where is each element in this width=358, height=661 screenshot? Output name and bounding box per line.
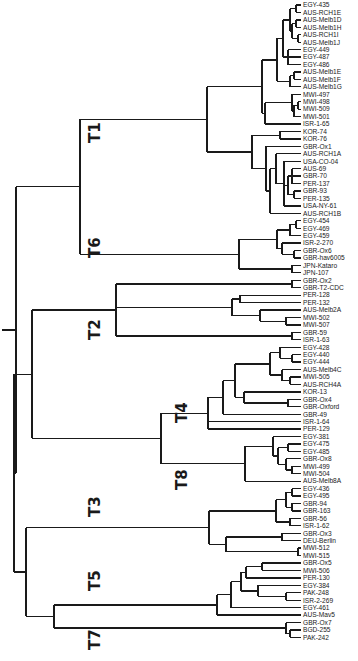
leaf-label: GBR-56 [303, 515, 327, 522]
leaf-label: PER-132 [303, 299, 330, 306]
leaf-label: MWI-502 [303, 314, 330, 321]
leaf-label: PER-129 [303, 425, 330, 432]
leaf-label: EGY-459 [303, 232, 330, 239]
clade-label-t3: T3 [86, 496, 104, 517]
leaf-label: EGY-487 [303, 53, 330, 60]
leaf-label: AUS-RCH1A [303, 150, 342, 157]
leaf-label: KOR-76 [303, 135, 327, 142]
leaf-label: GBR-59 [303, 329, 327, 336]
leaf-label: ISR-1-63 [303, 336, 330, 343]
leaf-label: EGY-454 [303, 217, 330, 224]
leaf-label: ISR-1-65 [303, 120, 330, 127]
clade-labels: T1T6T2T4T8T3T5T7 [86, 122, 191, 650]
leaf-label: AUS-Melb8A [303, 477, 342, 484]
leaf-label: EGY-475 [303, 440, 330, 447]
leaf-label: EGY-469 [303, 225, 330, 232]
leaf-labels: EGY-435AUS-RCH1EAUS-Melb1DAUS-Melb1HAUS-… [303, 1, 345, 640]
leaf-label: AUS-Melb1G [303, 83, 342, 90]
clade-label-t4: T4 [173, 402, 191, 423]
leaf-label: AUS-Melb1E [303, 68, 342, 75]
leaf-label: AUS-Melb1J [303, 39, 340, 46]
leaf-label: BGD-255 [303, 626, 331, 633]
leaf-label: JPN-Kataro [303, 262, 337, 269]
leaf-label: AUS-RCH1I [303, 31, 339, 38]
leaf-label: EGY-485 [303, 448, 330, 455]
leaf-label: EGY-436 [303, 485, 330, 492]
leaf-label: AUS-69 [303, 165, 326, 172]
leaf-label: GBR-Ox8 [303, 455, 332, 462]
leaf-label: PAK-242 [303, 634, 329, 641]
leaf-label: GBR-163 [303, 507, 331, 514]
leaf-label: GBR-94 [303, 500, 327, 507]
leaf-label: AUS-RCH4A [303, 381, 342, 388]
leaf-label: GBR-49 [303, 411, 327, 418]
leaf-label: AUS-RCH1B [303, 210, 342, 217]
leaf-label: MWI-506 [303, 567, 330, 574]
leaf-label: AUS-Melb1H [303, 24, 342, 31]
clade-label-t6: T6 [86, 237, 104, 258]
leaf-label: JPN-107 [303, 269, 329, 276]
leaf-label: AUS-Mav5 [303, 611, 335, 618]
leaf-label: MWI-512 [303, 544, 330, 551]
leaf-label: PER-130 [303, 574, 330, 581]
leaf-label: MWI-497 [303, 91, 330, 98]
leaf-label: MWI-507 [303, 321, 330, 328]
leaf-label: MWI-498 [303, 98, 330, 105]
leaf-label: GBR-Ox4 [303, 396, 332, 403]
leaf-label: EGY-495 [303, 492, 330, 499]
leaf-label: AUS-Melb4C [303, 366, 342, 373]
leaf-label: USA-CO-04 [303, 158, 339, 165]
leaf-label: PER-137 [303, 180, 330, 187]
leaf-label: GBR-93 [303, 187, 327, 194]
leaf-label: GBR-Ox5 [303, 559, 332, 566]
leaf-label: USA-NY-61 [303, 202, 337, 209]
clade-label-t1: T1 [86, 122, 104, 143]
clade-label-t5: T5 [86, 570, 104, 591]
leaf-label: EGY-449 [303, 46, 330, 53]
leaf-label: GBR-70 [303, 172, 327, 179]
leaf-label: MWI-509 [303, 105, 330, 112]
leaf-label: AUS-Melb1D [303, 16, 342, 23]
leaf-label: MWI-501 [303, 113, 330, 120]
leaf-label: EGY-428 [303, 344, 330, 351]
leaf-label: DEU-Berlin [303, 537, 336, 544]
leaf-label: ISR-2-269 [303, 597, 333, 604]
leaf-label: EGY-384 [303, 582, 330, 589]
leaf-label: EGY-486 [303, 61, 330, 68]
leaf-label: KOR-74 [303, 128, 327, 135]
leaf-label: ISR-1-62 [303, 522, 330, 529]
leaf-label: EGY-381 [303, 433, 330, 440]
leaf-label: AUS-Melb2A [303, 306, 342, 313]
leaf-label: EGY-444 [303, 358, 330, 365]
clade-label-t7: T7 [86, 629, 104, 650]
clade-label-t8: T8 [173, 469, 191, 490]
leaf-label: GBR-Ox1 [303, 143, 332, 150]
leaf-label: PER-128 [303, 291, 330, 298]
leaf-label: GBR-hav6005 [303, 254, 345, 261]
clade-label-t2: T2 [86, 319, 104, 340]
leaf-label: GBR-Ox3 [303, 530, 332, 537]
leaf-label: GBR-Ox7 [303, 619, 332, 626]
leaf-label: GBR-T2-CDC [303, 284, 344, 291]
leaf-label: PER-135 [303, 195, 330, 202]
leaf-label: GBR-Ox6 [303, 247, 332, 254]
leaf-label: ISR-2-270 [303, 239, 333, 246]
leaf-label: PAK-248 [303, 589, 329, 596]
phylogenetic-tree: EGY-435AUS-RCH1EAUS-Melb1DAUS-Melb1HAUS-… [0, 0, 358, 661]
leaf-label: GBR-Oxford [303, 403, 340, 410]
leaf-label: AUS-Melb1F [303, 76, 341, 83]
leaf-label: EGY-440 [303, 351, 330, 358]
leaf-label: KOR-13 [303, 388, 327, 395]
leaf-label: AUS-RCH1E [303, 9, 342, 16]
tree-branches [2, 5, 301, 637]
leaf-label: GBR-Ox2 [303, 277, 332, 284]
leaf-label: ISR-1-64 [303, 418, 330, 425]
leaf-label: MWI-515 [303, 552, 330, 559]
leaf-label: MWI-504 [303, 470, 330, 477]
leaf-label: MWI-505 [303, 373, 330, 380]
leaf-label: MWI-499 [303, 463, 330, 470]
leaf-label: EGY-461 [303, 604, 330, 611]
leaf-label: EGY-435 [303, 1, 330, 8]
